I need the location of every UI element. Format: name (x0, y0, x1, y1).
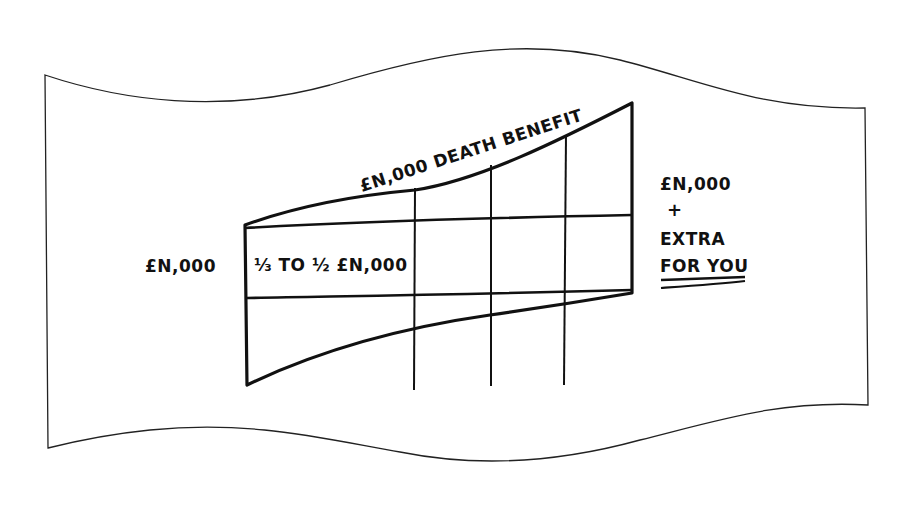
vertical-divider-1 (414, 188, 415, 390)
diagram-canvas: £N,000 DEATH BENEFIT £N,000 ⅓ TO ½ £N,00… (0, 0, 902, 513)
right-value-label: £N,000 (660, 174, 731, 194)
for-you-label: FOR YOU (660, 256, 749, 276)
left-value-label: £N,000 (145, 256, 216, 276)
plus-sign: + (667, 199, 683, 220)
band-fraction-label: ⅓ TO ½ £N,000 (254, 255, 408, 275)
extra-label: EXTRA (660, 229, 725, 249)
diagram-svg: £N,000 DEATH BENEFIT £N,000 ⅓ TO ½ £N,00… (0, 0, 902, 513)
paper-frame (45, 49, 868, 461)
